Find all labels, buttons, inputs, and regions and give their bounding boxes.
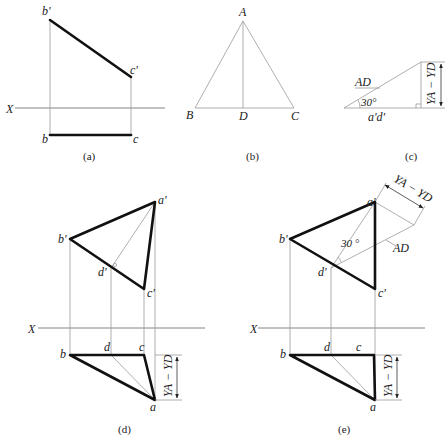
label-d-prime: d' <box>98 265 107 279</box>
caption-a: (a) <box>83 150 96 163</box>
figure-c: AD 30° a'd' YA − YD (c) <box>344 62 445 163</box>
label-c-prime: c' <box>378 286 386 300</box>
x-axis-label: X <box>27 322 36 336</box>
label-YA-YD: YA − YD <box>161 354 175 397</box>
label-offset-YA-YD: YA − YD <box>391 172 435 206</box>
edge-A-C <box>243 21 294 108</box>
extension-line-end <box>414 206 425 225</box>
caption-b: (b) <box>246 150 259 163</box>
segment-b-prime-c-prime <box>50 20 131 77</box>
label-AD: AD <box>354 75 371 89</box>
figure-d: YA − YD X a' b' c' d' b d c a (d) <box>27 193 205 436</box>
label-a: a <box>370 400 376 414</box>
triangle-top-view <box>290 355 375 400</box>
edge-A-B <box>195 21 243 108</box>
label-a-prime: a' <box>367 195 376 209</box>
label-b-prime: b' <box>58 232 67 246</box>
label-c: c <box>139 340 145 354</box>
figure-a: X b' c' b c (a) <box>5 4 165 163</box>
label-A: A <box>238 5 247 19</box>
x-axis-label: X <box>249 322 258 336</box>
label-d: d <box>104 340 111 354</box>
label-c: c <box>133 132 139 146</box>
label-C: C <box>291 109 300 123</box>
extension-line-a <box>375 183 386 202</box>
label-angle-30: 30 ° <box>340 237 360 249</box>
figure-e: YA − YD YA − YD 30 ° AD X a' b' c' d' b … <box>249 172 435 436</box>
caption-d: (d) <box>118 423 131 436</box>
label-a: a <box>150 400 156 414</box>
offset-leg <box>375 202 414 225</box>
label-d-prime: d' <box>318 265 327 279</box>
label-c: c <box>356 340 362 354</box>
label-b-prime: b' <box>42 4 51 18</box>
right-angle-mark <box>416 104 421 108</box>
label-b: b <box>60 347 66 361</box>
label-b: b <box>42 132 48 146</box>
descriptive-geometry-figure: X b' c' b c (a) A B D C (b) AD 30° a'd' … <box>0 0 445 445</box>
label-c-prime: c' <box>147 286 155 300</box>
label-a-prime: a' <box>158 193 167 207</box>
caption-c: (c) <box>405 150 418 163</box>
label-d: d <box>324 340 331 354</box>
angle-arc <box>338 257 341 262</box>
label-D: D <box>238 109 248 123</box>
label-a-prime-d-prime: a'd' <box>368 110 386 124</box>
label-angle-30: 30° <box>360 96 377 108</box>
label-AD: AD <box>392 241 409 255</box>
caption-e: (e) <box>338 423 351 436</box>
right-angle-dot <box>113 263 116 266</box>
triangle-front-view <box>290 202 375 289</box>
figure-b: A B D C (b) <box>186 5 300 163</box>
label-b: b <box>280 347 286 361</box>
label-YA-YD: YA − YD <box>381 354 395 397</box>
label-c-prime: c' <box>130 63 138 77</box>
label-B: B <box>186 108 194 122</box>
x-axis-label: X <box>5 102 14 116</box>
triangle-front-view <box>70 202 155 289</box>
line-a-d <box>331 355 375 400</box>
label-YA-YD: YA − YD <box>424 62 438 105</box>
triangle-top-view <box>70 355 155 400</box>
angle-arc <box>358 100 360 108</box>
label-b-prime: b' <box>279 232 288 246</box>
